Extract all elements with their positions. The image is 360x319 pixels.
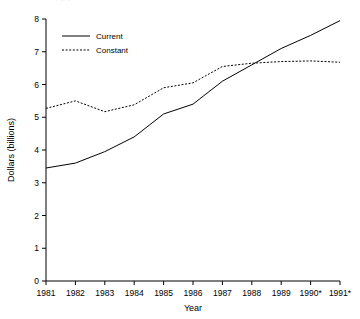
legend-label-current: Current <box>96 32 123 41</box>
chart-container: · ·· · 012345678 19811982198319841985198… <box>0 0 360 319</box>
x-tick-label: 1991* <box>329 288 352 298</box>
x-tick-label: 1988 <box>242 288 261 298</box>
x-axis-title: Year <box>184 303 202 313</box>
x-axis-ticks <box>46 281 340 285</box>
x-axis-tick-labels: 1981198219831984198519861987198819891990… <box>37 288 352 298</box>
y-axis-tick-labels: 012345678 <box>34 14 39 286</box>
x-tick-label: 1982 <box>66 288 85 298</box>
x-tick-label: 1981 <box>37 288 56 298</box>
series-line-current <box>46 21 340 168</box>
y-tick-label: 2 <box>34 211 39 221</box>
y-tick-label: 3 <box>34 178 39 188</box>
y-tick-label: 5 <box>34 112 39 122</box>
y-tick-label: 0 <box>34 276 39 286</box>
y-tick-label: 8 <box>34 14 39 24</box>
y-tick-label: 1 <box>34 243 39 253</box>
x-tick-label: 1986 <box>184 288 203 298</box>
y-tick-label: 7 <box>34 47 39 57</box>
x-tick-label: 1985 <box>154 288 173 298</box>
y-tick-label: 6 <box>34 80 39 90</box>
y-axis-ticks <box>42 19 46 281</box>
x-tick-label: 1987 <box>213 288 232 298</box>
y-tick-label: 4 <box>34 145 39 155</box>
chart-legend: Current Constant <box>62 32 129 55</box>
x-tick-label: 1984 <box>125 288 144 298</box>
y-axis-title: Dollars (billions) <box>6 118 16 182</box>
x-tick-label: 1990* <box>299 288 322 298</box>
line-chart: 012345678 198119821983198419851986198719… <box>0 0 360 319</box>
legend-label-constant: Constant <box>96 46 129 55</box>
x-tick-label: 1983 <box>95 288 114 298</box>
x-tick-label: 1989 <box>272 288 291 298</box>
